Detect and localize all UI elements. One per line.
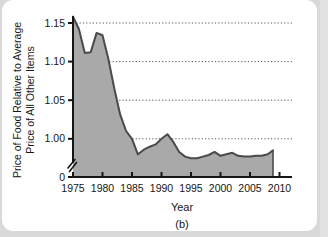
y-tick-label-3: 1.10 xyxy=(45,55,66,67)
x-tick-label-3: 1990 xyxy=(150,182,174,194)
y-axis-title: Price of Food Relative to Average Price … xyxy=(11,22,36,178)
x-tick-label-4: 1995 xyxy=(179,182,203,194)
y-tick-labels: 1.15 1.10 1.05 1.00 0 xyxy=(45,17,66,183)
x-tick-label-6: 2005 xyxy=(238,182,262,194)
figure-caption: (b) xyxy=(175,218,188,230)
y-axis-title-line-1: Price of Food Relative to Average xyxy=(11,22,23,178)
x-tick-label-2: 1985 xyxy=(120,182,144,194)
x-tick-label-0: 1975 xyxy=(61,182,85,194)
y-tick-label-1: 1.00 xyxy=(45,132,66,144)
x-tick-label-1: 1980 xyxy=(91,182,115,194)
screenshot-root: 1.15 1.10 1.05 1.00 0 1975 1980 1985 199… xyxy=(0,0,328,237)
x-axis-title: Year xyxy=(171,201,194,213)
x-tick-labels: 1975 1980 1985 1990 1995 2000 2005 2010 xyxy=(61,182,291,194)
x-tick-label-5: 2000 xyxy=(209,182,233,194)
y-axis-title-line-2: Price of All Other Items xyxy=(24,46,36,153)
y-axis xyxy=(68,16,73,177)
chart-figure: 1.15 1.10 1.05 1.00 0 1975 1980 1985 199… xyxy=(0,0,328,237)
price-of-food-area-chart: 1.15 1.10 1.05 1.00 0 1975 1980 1985 199… xyxy=(0,0,328,237)
y-tick-label-4: 1.15 xyxy=(45,17,66,29)
y-tick-label-2: 1.05 xyxy=(45,94,66,106)
x-tick-label-7: 2010 xyxy=(268,182,292,194)
data-area-series xyxy=(73,17,273,177)
